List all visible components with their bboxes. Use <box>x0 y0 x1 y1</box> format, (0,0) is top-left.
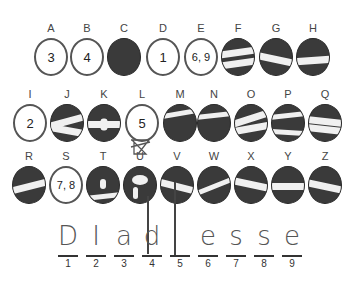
letter-label: X <box>231 150 271 163</box>
cell-h: H <box>293 22 333 76</box>
slot-index: 8 <box>252 258 276 269</box>
cell-u: U <box>120 150 160 204</box>
letter-label: T <box>83 150 123 163</box>
slot-index: 1 <box>56 258 80 269</box>
letter-label: W <box>194 150 234 163</box>
letter-label: I <box>10 88 50 101</box>
disc-number: 4 <box>72 50 102 65</box>
cell-v: V <box>157 150 197 204</box>
answer-slot-2: I2 <box>84 217 108 269</box>
disc-number: 6, 9 <box>186 51 216 63</box>
letter-label: N <box>194 88 234 101</box>
handwritten-letter: l <box>168 217 192 255</box>
disc-dark <box>197 104 231 142</box>
cell-f: F <box>218 22 258 76</box>
answer-slot-8: s8 <box>252 217 276 269</box>
blank-line <box>198 255 218 257</box>
disc-dark <box>221 38 255 76</box>
disc-dark <box>271 166 305 204</box>
handwritten-letter: D <box>56 217 80 255</box>
letter-label: F <box>218 22 258 35</box>
letter-label: A <box>31 22 71 35</box>
disc-dark <box>296 38 330 76</box>
cell-q: Q <box>305 88 345 142</box>
handwritten-letter: I <box>84 217 108 255</box>
disc-dark <box>308 166 342 204</box>
cell-a: A3 <box>31 22 71 76</box>
cell-c: C <box>104 22 144 76</box>
disc-number: 1 <box>148 50 178 65</box>
disc-white: 2 <box>13 104 47 142</box>
disc-dark <box>163 104 197 142</box>
cell-t: T <box>83 150 123 204</box>
disc-dark <box>50 104 84 142</box>
letter-label: R <box>9 150 49 163</box>
disc-dark <box>123 166 157 204</box>
cell-x: X <box>231 150 271 204</box>
letter-label: Z <box>305 150 345 163</box>
disc-dark <box>12 166 46 204</box>
blank-line <box>142 255 162 257</box>
letter-label: J <box>47 88 87 101</box>
cell-i: I2 <box>10 88 50 142</box>
disc-white: 1 <box>146 38 180 76</box>
cell-e: E6, 9 <box>181 22 221 76</box>
disc-dark <box>259 38 293 76</box>
cell-s: S7, 8 <box>46 150 86 204</box>
disc-dark <box>197 166 231 204</box>
slot-index: 5 <box>168 258 192 269</box>
slot-index: 3 <box>112 258 136 269</box>
answer-slot-3: a3 <box>112 217 136 269</box>
cell-b: B4 <box>67 22 107 76</box>
blank-line <box>86 255 106 257</box>
slot-index: 9 <box>280 258 304 269</box>
cell-d: D1 <box>143 22 183 76</box>
cell-y: Y <box>268 150 308 204</box>
disc-dark <box>87 104 121 142</box>
blank-line <box>226 255 246 257</box>
blank-line <box>58 255 78 257</box>
crossed-out-scribble <box>128 138 152 156</box>
disc-dark <box>86 166 120 204</box>
letter-label: H <box>293 22 333 35</box>
handwritten-letter: e <box>196 217 220 255</box>
answer-slot-4: d4 <box>140 217 164 269</box>
slot-index: 7 <box>224 258 248 269</box>
cell-j: J <box>47 88 87 142</box>
answer-slot-5: l5 <box>168 217 192 269</box>
cell-z: Z <box>305 150 345 204</box>
letter-label: C <box>104 22 144 35</box>
disc-white: 5 <box>125 104 159 142</box>
cell-g: G <box>256 22 296 76</box>
disc-number: 2 <box>15 116 45 131</box>
letter-label: L <box>122 88 162 101</box>
letter-label: Q <box>305 88 345 101</box>
disc-dark <box>271 104 305 142</box>
answer-area: D1 I2 a3 d4 l5 e6 s7 s8 e9 <box>40 205 320 281</box>
disc-white: 7, 8 <box>49 166 83 204</box>
disc-white: 3 <box>34 38 68 76</box>
disc-white: 6, 9 <box>184 38 218 76</box>
blank-line <box>114 255 134 257</box>
cell-k: K <box>84 88 124 142</box>
cell-l: L5 <box>122 88 162 142</box>
slot-index: 6 <box>196 258 220 269</box>
handwritten-letter: d <box>140 217 164 255</box>
cell-p: P <box>268 88 308 142</box>
letter-label: Y <box>268 150 308 163</box>
disc-number: 5 <box>127 116 157 131</box>
slot-index: 2 <box>84 258 108 269</box>
blank-line <box>170 255 190 257</box>
disc-dark <box>160 166 194 204</box>
letter-label: P <box>268 88 308 101</box>
answer-slot-1: D1 <box>56 217 80 269</box>
letter-label: D <box>143 22 183 35</box>
letter-label: S <box>46 150 86 163</box>
cell-w: W <box>194 150 234 204</box>
letter-label: G <box>256 22 296 35</box>
letter-label: K <box>84 88 124 101</box>
slot-index: 4 <box>140 258 164 269</box>
disc-dark <box>308 104 342 142</box>
letter-label: O <box>231 88 271 101</box>
cell-o: O <box>231 88 271 142</box>
